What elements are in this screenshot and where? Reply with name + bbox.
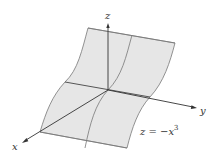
x-axis-label: x [12,141,18,152]
z-arrow-icon [106,23,109,28]
cubic-cylinder-diagram: z y x z = −x3 [0,0,219,165]
equation-label: z = −x3 [139,124,179,137]
y-arrow-icon [191,105,197,109]
z-axis-label: z [104,10,111,21]
equation-lhs: z = −x [139,126,174,137]
y-axis-label: y [199,105,206,116]
equation-exponent: 3 [174,124,178,132]
